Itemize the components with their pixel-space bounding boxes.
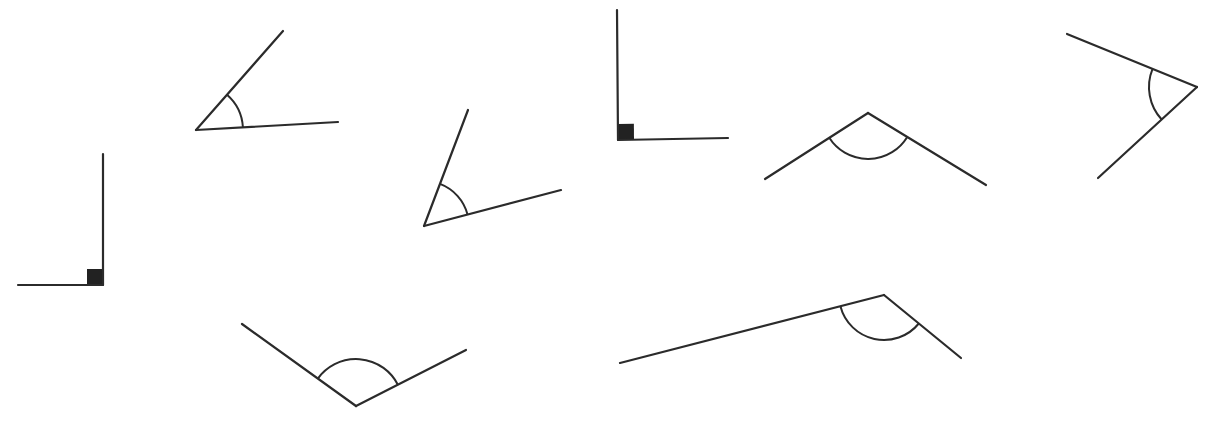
angle-ray [356, 350, 466, 406]
angle-ray [242, 324, 356, 406]
angle-ray [1067, 34, 1197, 87]
angle-ray [196, 122, 338, 130]
angle-arc-marker-icon [829, 137, 907, 159]
angle-figure-obtuse [242, 324, 466, 406]
angle-arc-marker-icon [440, 184, 468, 215]
angle-figure-right [617, 10, 728, 140]
angle-ray [196, 31, 283, 130]
angle-figure-obtuse [620, 295, 961, 363]
angle-figure-right [18, 154, 103, 285]
angle-figure-obtuse [765, 113, 986, 185]
angle-figure-acute [196, 31, 338, 130]
angle-figure-acute [1067, 34, 1197, 178]
angle-ray [1098, 87, 1197, 178]
angles-canvas [0, 0, 1210, 434]
angle-ray [617, 10, 618, 140]
right-angle-marker-icon [618, 124, 634, 140]
angle-ray [868, 113, 986, 185]
angle-ray [765, 113, 868, 179]
angle-ray [618, 138, 728, 140]
angle-ray [620, 295, 884, 363]
angle-figure-acute [424, 110, 561, 226]
angle-ray [424, 110, 468, 226]
angle-ray [884, 295, 961, 358]
angle-ray [424, 190, 561, 226]
right-angle-marker-icon [87, 269, 103, 285]
angle-arc-marker-icon [227, 95, 243, 128]
angle-arc-marker-icon [840, 306, 918, 340]
angle-arc-marker-icon [318, 359, 398, 385]
angle-arc-marker-icon [1149, 69, 1162, 120]
